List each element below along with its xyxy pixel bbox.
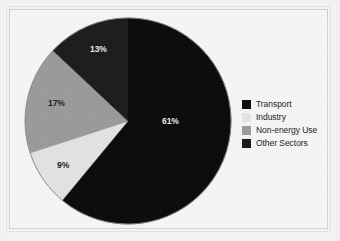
legend-swatch-transport (242, 100, 251, 109)
legend-swatch-other-sectors (242, 139, 251, 148)
legend-item-transport: Transport (242, 98, 317, 110)
legend-swatch-industry (242, 113, 251, 122)
legend-label-transport: Transport (256, 99, 292, 109)
pie-slice-group (25, 18, 231, 224)
plot-area: 61% 9% 17% 13% Transport Industry Non-en… (10, 10, 327, 228)
legend-item-non-energy-use: Non-energy Use (242, 124, 317, 136)
chart-legend: Transport Industry Non-energy Use Other … (242, 98, 317, 150)
legend-swatch-non-energy-use (242, 126, 251, 135)
pie-label-industry: 9% (57, 160, 69, 170)
pie-label-other-sectors: 13% (90, 44, 107, 54)
chart-figure: 61% 9% 17% 13% Transport Industry Non-en… (0, 0, 340, 241)
legend-label-non-energy-use: Non-energy Use (256, 125, 317, 135)
legend-label-other-sectors: Other Sectors (256, 138, 308, 148)
legend-label-industry: Industry (256, 112, 286, 122)
legend-item-other-sectors: Other Sectors (242, 137, 317, 149)
legend-item-industry: Industry (242, 111, 317, 123)
pie-label-non-energy-use: 17% (48, 98, 65, 108)
pie-label-transport: 61% (162, 116, 179, 126)
